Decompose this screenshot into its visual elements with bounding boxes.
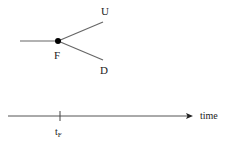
up-branch xyxy=(58,22,103,41)
tick-label-tf: tF xyxy=(55,126,62,141)
node-label-f: F xyxy=(54,50,60,61)
time-axis-label: time xyxy=(200,110,218,121)
timeline xyxy=(8,111,193,121)
event-tree xyxy=(20,22,103,60)
tick-label-subscript: F xyxy=(58,131,62,139)
diagram-canvas xyxy=(0,0,228,149)
branch-label-down: D xyxy=(100,65,108,76)
branch-label-up: U xyxy=(101,6,109,17)
node-f-dot xyxy=(55,38,61,44)
down-branch xyxy=(58,41,103,60)
